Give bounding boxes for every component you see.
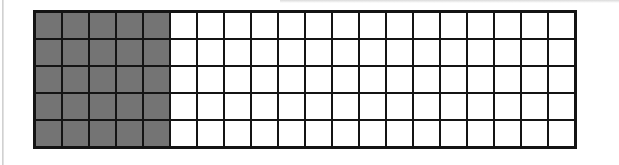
grid-cell-unshaded [332,12,359,39]
page-edge-line [2,0,4,165]
grid-cell-unshaded [278,12,305,39]
grid-cell-unshaded [251,12,278,39]
grid-cell-unshaded [440,12,467,39]
grid-cell-shaded [116,39,143,66]
grid-cell-unshaded [251,39,278,66]
grid-cell-shaded [89,12,116,39]
grid-cell-unshaded [332,93,359,120]
grid-cell-unshaded [494,39,521,66]
grid-cell-unshaded [467,39,494,66]
grid-cell-unshaded [386,66,413,93]
grid-cell-unshaded [521,12,548,39]
scan-smudge [280,0,619,3]
grid-cell-unshaded [413,66,440,93]
grid-cell-unshaded [386,39,413,66]
grid-cell-unshaded [359,12,386,39]
grid-cell-unshaded [332,66,359,93]
grid-cell-shaded [62,39,89,66]
grid-cell-unshaded [224,120,251,147]
grid-cell-unshaded [197,120,224,147]
grid-cell-unshaded [278,66,305,93]
grid-cell-unshaded [467,93,494,120]
worksheet-page [0,0,619,165]
grid-cell-shaded [143,93,170,120]
grid-cell-unshaded [359,93,386,120]
grid-cell-unshaded [440,39,467,66]
grid-cell-unshaded [224,12,251,39]
grid-cell-unshaded [386,93,413,120]
grid-cell-unshaded [170,66,197,93]
grid-cell-unshaded [494,12,521,39]
grid-cell-unshaded [494,120,521,147]
grid-cell-unshaded [305,39,332,66]
grid-cell-unshaded [332,39,359,66]
grid-cell-unshaded [170,120,197,147]
grid-cell-shaded [143,39,170,66]
grid-cell-unshaded [332,120,359,147]
grid-cell-shaded [116,93,143,120]
grid-cell-unshaded [467,66,494,93]
grid-cell-unshaded [305,66,332,93]
grid-cell-unshaded [467,120,494,147]
grid-cell-unshaded [305,12,332,39]
grid-cell-unshaded [251,66,278,93]
grid-cell-unshaded [197,66,224,93]
grid-cell-unshaded [413,12,440,39]
grid-cell-unshaded [440,120,467,147]
grid-cell-unshaded [251,93,278,120]
grid-cell-unshaded [170,93,197,120]
grid-cell-shaded [62,120,89,147]
grid-cell-unshaded [440,66,467,93]
grid-cell-unshaded [521,39,548,66]
grid-cell-unshaded [251,120,278,147]
grid-cell-unshaded [548,12,575,39]
grid-cell-shaded [143,12,170,39]
grid-cell-unshaded [224,66,251,93]
hundredths-grid [33,10,577,149]
grid-cell-shaded [143,66,170,93]
grid-cell-unshaded [413,120,440,147]
grid-cell-unshaded [170,12,197,39]
grid-cell-unshaded [197,12,224,39]
grid-cell-unshaded [521,66,548,93]
grid-cell-shaded [143,120,170,147]
grid-cell-unshaded [359,66,386,93]
grid-cell-shaded [62,12,89,39]
grid-cell-unshaded [197,93,224,120]
grid-cell-shaded [35,66,62,93]
grid-cell-unshaded [494,93,521,120]
grid-cell-unshaded [413,93,440,120]
grid-cell-unshaded [413,39,440,66]
grid-cell-unshaded [521,120,548,147]
grid-cell-shaded [35,120,62,147]
grid-cell-unshaded [305,120,332,147]
grid-cell-unshaded [548,120,575,147]
grid-cell-shaded [35,12,62,39]
grid-cell-unshaded [278,93,305,120]
grid-cell-unshaded [467,12,494,39]
grid-cell-shaded [116,120,143,147]
grid-cell-shaded [89,39,116,66]
grid-cell-shaded [116,12,143,39]
grid-cell-unshaded [278,120,305,147]
grid-cell-unshaded [494,66,521,93]
grid-cell-unshaded [386,120,413,147]
grid-cell-unshaded [170,39,197,66]
grid-cell-unshaded [197,39,224,66]
grid-cell-unshaded [440,93,467,120]
grid-cell-shaded [62,66,89,93]
grid-cell-unshaded [278,39,305,66]
grid-cell-unshaded [548,39,575,66]
grid-cell-unshaded [548,93,575,120]
grid-cell-shaded [62,93,89,120]
grid-cell-shaded [35,39,62,66]
grid-cell-shaded [35,93,62,120]
grid-cell-shaded [89,120,116,147]
grid-cell-unshaded [224,39,251,66]
grid-cell-unshaded [386,12,413,39]
grid-cell-unshaded [305,93,332,120]
grid-cell-unshaded [359,120,386,147]
grid-cell-unshaded [224,93,251,120]
grid-cell-shaded [89,93,116,120]
grid-cell-unshaded [521,93,548,120]
